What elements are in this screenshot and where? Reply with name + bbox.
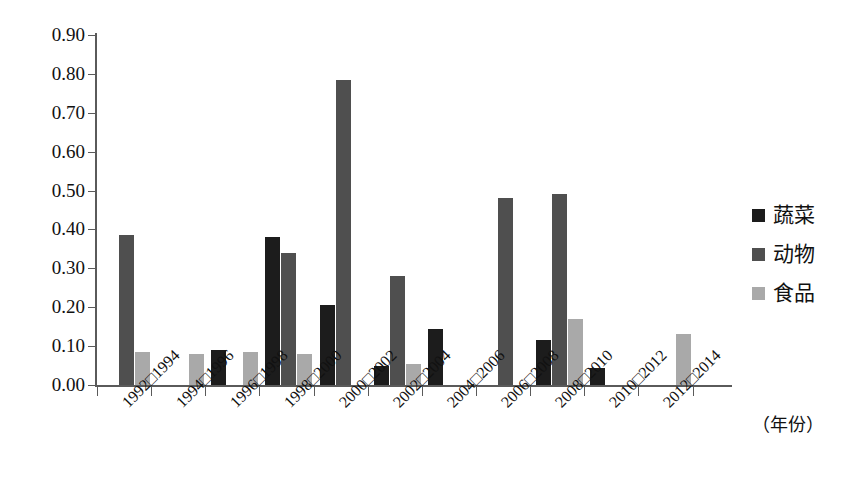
legend-item: 食品 — [752, 274, 815, 313]
legend-label: 蔬菜 — [773, 204, 815, 227]
y-tick-mark — [88, 74, 96, 75]
x-axis-label: 2004□2006 — [443, 399, 456, 412]
bar — [119, 235, 134, 385]
y-axis-tick: 0.60 — [95, 152, 96, 153]
x-axis-label: 2002□2004 — [389, 399, 402, 412]
y-axis-tick: 0.50 — [95, 191, 96, 192]
x-axis-label: 1998□2000 — [281, 399, 294, 412]
legend-item: 蔬菜 — [752, 196, 815, 235]
bar — [390, 276, 405, 385]
y-axis-tick: 0.70 — [95, 113, 96, 114]
y-tick-mark — [88, 385, 96, 386]
bar — [336, 80, 351, 385]
y-tick-mark — [88, 229, 96, 230]
y-tick-label: 0.80 — [52, 63, 85, 84]
y-tick-mark — [88, 152, 96, 153]
x-axis-label: 1996□1998 — [227, 399, 240, 412]
legend-item: 动物 — [752, 235, 815, 274]
y-axis-tick: 0.30 — [95, 268, 96, 269]
legend-swatch-icon — [752, 248, 765, 261]
x-axis-title: （年份） — [752, 415, 824, 435]
y-axis-tick: 0.90 — [95, 35, 96, 36]
y-tick-label: 0.00 — [52, 374, 85, 395]
y-axis-tick: 0.80 — [95, 74, 96, 75]
y-tick-label: 0.90 — [52, 24, 85, 45]
x-tick-mark — [97, 387, 98, 396]
legend-swatch-icon — [752, 209, 765, 222]
plot-area — [95, 35, 723, 385]
x-axis-label: 2006□2008 — [498, 399, 511, 412]
y-tick-mark — [88, 346, 96, 347]
y-tick-label: 0.70 — [52, 102, 85, 123]
y-tick-label: 0.50 — [52, 180, 85, 201]
legend-label: 食品 — [773, 282, 815, 305]
y-axis-tick: 0.10 — [95, 346, 96, 347]
chart-legend: 蔬菜动物食品 — [752, 196, 815, 313]
y-axis-tick: 0.40 — [95, 229, 96, 230]
y-tick-mark — [88, 35, 96, 36]
x-axis-label: 2000□2002 — [335, 399, 348, 412]
legend-swatch-icon — [752, 287, 765, 300]
y-tick-label: 0.20 — [52, 296, 85, 317]
y-tick-label: 0.30 — [52, 257, 85, 278]
y-axis-tick: 0.20 — [95, 307, 96, 308]
x-axis-label: 2012□2014 — [660, 399, 673, 412]
y-tick-mark — [88, 268, 96, 269]
x-axis-label: 2010□2012 — [606, 399, 619, 412]
legend-label: 动物 — [773, 243, 815, 266]
y-tick-mark — [88, 307, 96, 308]
y-tick-mark — [88, 113, 96, 114]
bar-chart: 0.000.100.200.300.400.500.600.700.800.90… — [0, 0, 849, 500]
y-tick-mark — [88, 191, 96, 192]
x-axis-label: 1992□1994 — [119, 399, 132, 412]
y-tick-label: 0.60 — [52, 141, 85, 162]
y-tick-label: 0.40 — [52, 218, 85, 239]
x-axis-label: 2008□2010 — [552, 399, 565, 412]
y-tick-label: 0.10 — [52, 335, 85, 356]
x-axis-label: 1994□1996 — [173, 399, 186, 412]
y-axis-tick: 0.00 — [95, 385, 96, 386]
